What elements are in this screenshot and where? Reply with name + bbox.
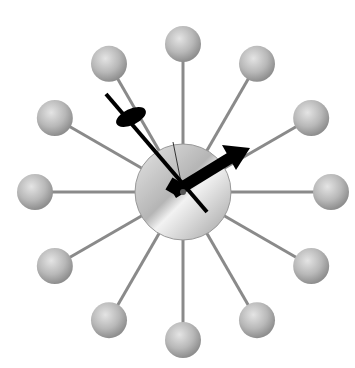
wooden-ball <box>91 302 127 338</box>
wooden-ball <box>313 174 349 210</box>
wooden-ball <box>91 46 127 82</box>
wooden-ball <box>17 174 53 210</box>
wooden-ball <box>293 248 329 284</box>
wooden-ball <box>165 322 201 358</box>
wooden-ball <box>239 46 275 82</box>
wooden-ball <box>239 302 275 338</box>
wooden-ball <box>37 100 73 136</box>
wooden-ball <box>293 100 329 136</box>
wooden-ball <box>37 248 73 284</box>
ball-clock <box>0 0 355 368</box>
wooden-ball <box>165 26 201 62</box>
center-pin <box>180 189 186 195</box>
